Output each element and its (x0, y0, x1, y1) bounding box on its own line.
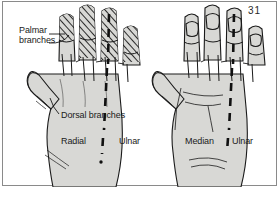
label-ulnar-right: Ulnar (232, 136, 253, 146)
label-palmar-branches: Palmar branches (19, 25, 55, 45)
figure-frame: Palmar branches Dorsal branches Radial U… (2, 1, 277, 186)
left-little-tendon (127, 64, 128, 82)
label-dorsal-branches: Dorsal branches (61, 110, 125, 120)
left-ring-hatch (99, 4, 123, 60)
label-radial: Radial (61, 136, 86, 146)
label-ulnar-left: Ulnar (119, 136, 140, 146)
right-little-edge (252, 64, 253, 82)
right-little-finger (248, 26, 265, 65)
figure-container: Palmar branches Dorsal branches Radial U… (0, 0, 280, 200)
right-hand-palmar (152, 5, 265, 187)
left-middle-hatch (77, 2, 101, 58)
plate-number: 31 (248, 6, 261, 16)
label-palmar-branches-line2: branches (19, 35, 55, 45)
label-median: Median (185, 136, 214, 146)
left-divider-terminal-dot (99, 160, 102, 163)
label-palmar-branches-line1: Palmar (19, 25, 55, 35)
left-index-hatch (57, 10, 79, 40)
